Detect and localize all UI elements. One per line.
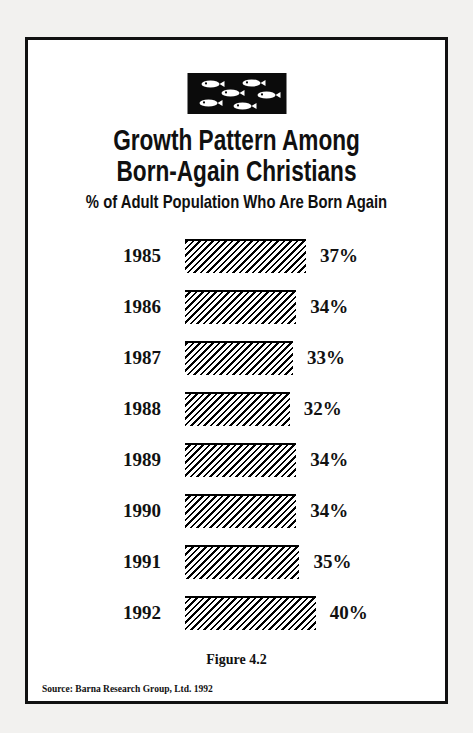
bar xyxy=(185,494,296,528)
bar-row: 198634% xyxy=(28,281,445,332)
bar-value-label: 34% xyxy=(310,500,348,522)
bar-category-label: 1990 xyxy=(28,500,161,522)
chart-title-line-1: Growth Pattern Among xyxy=(74,126,399,155)
bar xyxy=(185,290,296,324)
bar-value-label: 34% xyxy=(310,296,348,318)
bar-category-label: 1992 xyxy=(28,602,161,624)
bar-value-label: 35% xyxy=(313,551,351,573)
bar-value-label: 32% xyxy=(304,398,342,420)
bar-row: 198832% xyxy=(28,383,445,434)
bar xyxy=(185,392,290,426)
bar-value-label: 34% xyxy=(310,449,348,471)
bar xyxy=(185,545,299,579)
bar-row: 199240% xyxy=(28,587,445,638)
school-of-fish-icon xyxy=(187,73,286,114)
bar-category-label: 1989 xyxy=(28,449,161,471)
bar xyxy=(185,341,293,375)
bar-category-label: 1988 xyxy=(28,398,161,420)
bar-row: 199034% xyxy=(28,485,445,536)
chart-title-line-2: Born-Again Christians xyxy=(74,157,399,186)
bar xyxy=(185,239,306,273)
bar-value-label: 33% xyxy=(307,347,345,369)
figure-caption: Figure 4.2 xyxy=(28,652,445,668)
bar-category-label: 1987 xyxy=(28,347,161,369)
figure-frame: Growth Pattern Among Born-Again Christia… xyxy=(25,37,448,704)
bar-category-label: 1986 xyxy=(28,296,161,318)
bar-row: 198537% xyxy=(28,230,445,281)
bar-row: 198934% xyxy=(28,434,445,485)
bar-value-label: 40% xyxy=(330,602,368,624)
bar-category-label: 1985 xyxy=(28,245,161,267)
bar-value-label: 37% xyxy=(320,245,358,267)
bar xyxy=(185,443,296,477)
bar-category-label: 1991 xyxy=(28,551,161,573)
bar-row: 199135% xyxy=(28,536,445,587)
bar xyxy=(185,596,316,630)
bar-row: 198733% xyxy=(28,332,445,383)
source-note: Source: Barna Research Group, Ltd. 1992 xyxy=(42,684,213,694)
chart-subtitle: % of Adult Population Who Are Born Again xyxy=(74,192,399,211)
bar-chart: 198537%198634%198733%198832%198934%19903… xyxy=(28,230,445,638)
